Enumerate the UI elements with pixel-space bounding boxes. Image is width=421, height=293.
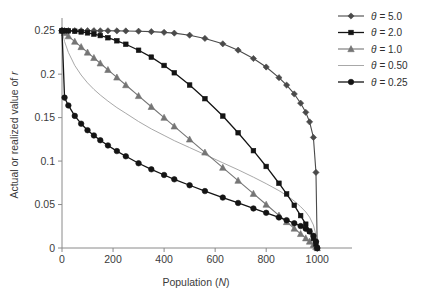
marker-square [236,130,241,135]
x-axis-title-text: Population ( [162,276,219,288]
legend-value: = 0.50 [379,60,408,71]
y-tick-label: 0.05 [35,198,56,210]
x-tick-label: 400 [155,253,173,265]
marker-circle [161,172,167,178]
marker-square [149,55,154,60]
marker-square [172,70,177,75]
x-tick-label: 0 [59,253,65,265]
legend-label: θ= 2.0 [371,27,402,38]
marker-square [292,203,297,208]
x-axis-title-close: ) [226,276,230,288]
theta-symbol: θ [371,77,377,88]
marker-square [277,181,282,186]
legend-value: = 5.0 [379,11,402,22]
legend-label: θ= 5.0 [371,11,402,22]
marker-circle [123,154,129,160]
marker-circle [114,148,120,154]
marker-circle [149,167,155,173]
marker-square [221,114,226,119]
marker-circle [348,79,354,85]
marker-circle [62,95,68,101]
marker-circle [311,233,317,239]
y-tick-label: 0.1 [40,155,55,167]
legend-value: = 1.0 [379,44,402,55]
marker-square [349,30,354,35]
y-tick-label: 0.25 [35,24,56,36]
y-tick-label: 0.15 [35,111,56,123]
marker-square [251,148,256,153]
x-tick-label: 600 [206,253,224,265]
marker-circle [220,195,226,201]
marker-square [79,30,84,35]
marker-circle [85,127,91,133]
marker-square [264,164,269,169]
marker-circle [251,206,257,212]
legend-label: θ= 1.0 [371,44,402,55]
line-chart: 00.050.10.150.20.2502004006008001000 θ= … [0,0,421,293]
y-tick-label: 0 [49,242,55,254]
marker-circle [66,103,72,109]
marker-circle [235,200,241,206]
marker-square [124,42,129,47]
marker-circle [91,133,97,139]
y-axis-title: Actual or realized value of r [8,71,20,199]
marker-square [298,213,303,218]
marker-square [72,29,77,34]
legend-value: = 2.0 [379,27,402,38]
marker-square [106,35,111,40]
marker-square [115,38,120,43]
marker-circle [298,223,304,229]
x-tick-label: 800 [257,253,275,265]
x-axis-title: Population (N) [162,276,229,288]
marker-circle [314,245,320,251]
marker-circle [202,188,208,194]
theta-symbol: θ [371,11,377,22]
marker-circle [98,137,104,143]
marker-square [203,96,208,101]
marker-circle [78,121,84,127]
marker-circle [284,217,290,223]
marker-circle [172,177,178,183]
y-axis-title-variable: r [8,71,20,75]
marker-square [66,29,71,34]
x-tick-label: 1000 [306,253,330,265]
marker-square [136,48,141,53]
theta-symbol: θ [371,60,377,71]
marker-circle [72,113,78,119]
marker-circle [105,143,111,149]
marker-circle [313,239,319,245]
marker-circle [59,28,65,34]
marker-circle [276,215,282,221]
y-axis-title-text: Actual or realized value of [8,75,20,199]
marker-circle [263,210,269,216]
marker-square [284,192,289,197]
theta-symbol: θ [371,27,377,38]
marker-circle [187,182,193,188]
marker-square [162,63,167,68]
x-tick-label: 200 [104,253,122,265]
marker-square [187,83,192,88]
marker-circle [291,220,297,226]
y-tick-label: 0.2 [40,68,55,80]
chart-figure: 00.050.10.150.20.2502004006008001000 θ= … [0,0,421,293]
marker-square [92,32,97,37]
marker-square [98,33,103,38]
legend-value: = 0.25 [379,77,408,88]
marker-circle [136,160,142,166]
theta-symbol: θ [371,44,377,55]
marker-square [85,31,90,36]
